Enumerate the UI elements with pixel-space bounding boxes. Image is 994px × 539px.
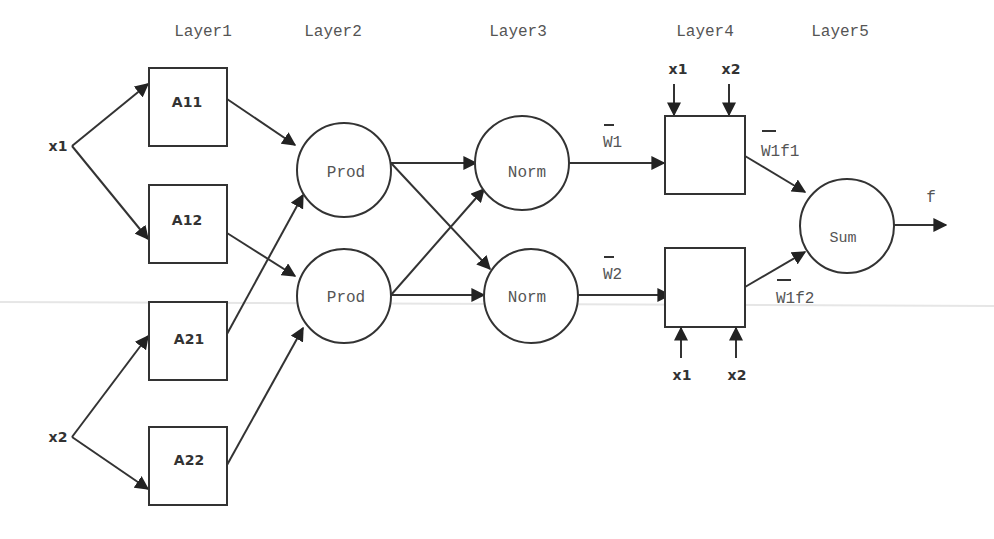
edge-a12-prod2 [227,233,295,276]
edge-prod1-norm2 [391,163,490,269]
w1-label: W1 [603,134,622,152]
anfis-diagram: Layer1 Layer2 Layer3 Layer4 Layer5 x1 x2… [0,0,994,539]
layer4-label: Layer4 [676,23,734,41]
node-norm1 [475,116,569,210]
l4-top-x2-label: x2 [722,61,741,77]
layer3-label: Layer3 [489,23,547,41]
node-sum-label: Sum [829,230,856,247]
node-a12-label: A12 [172,212,202,228]
layer5-label: Layer5 [811,23,869,41]
edge-l4box1-sum [745,156,805,192]
node-prod1-label: Prod [327,164,365,182]
layer2-label: Layer2 [304,23,362,41]
l4-bottom-x2-label: x2 [728,367,747,383]
edge-a21-prod1 [227,195,303,334]
w1f2-label: W1f2 [776,290,814,308]
edge-prod2-norm1 [391,189,484,295]
node-l4box1 [665,116,745,194]
input-x2-label: x2 [49,429,68,445]
node-a22-label: A22 [174,452,204,468]
edge-a22-prod2 [227,328,303,465]
output-f-label: f [926,189,936,207]
layer1-label: Layer1 [174,23,232,41]
edge-x2-a21 [72,336,148,437]
node-l4box2 [665,248,745,327]
l4-bottom-x1-label: x1 [673,367,692,383]
node-prod2-label: Prod [327,289,365,307]
edge-x1-a11 [72,84,148,146]
edge-x1-a12 [72,146,148,239]
w2-label: W2 [603,266,622,284]
node-sum [800,179,894,273]
w1f1-label: W1f1 [761,143,799,161]
edge-l4box2-sum [745,252,805,287]
node-a21-label: A21 [174,331,204,347]
l4-top-x1-label: x1 [669,61,688,77]
input-x1-label: x1 [49,138,68,154]
edge-a11-prod1 [227,99,295,145]
node-a11-label: A11 [172,94,202,110]
node-norm1-label: Norm [508,164,546,182]
edge-x2-a22 [72,437,148,489]
node-norm2-label: Norm [508,289,546,307]
